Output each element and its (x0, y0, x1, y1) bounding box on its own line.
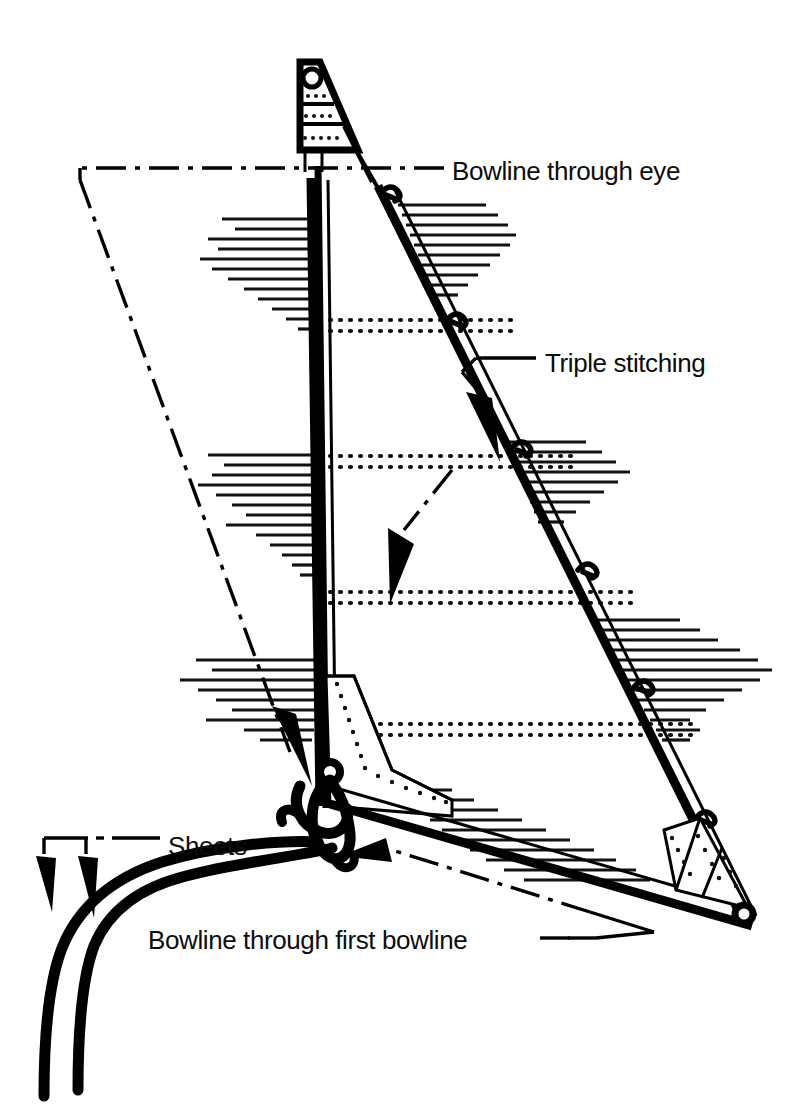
label-sheets: Sheets (168, 831, 247, 861)
label-bowline-through-first-bowline: Bowline through first bowline (148, 925, 467, 955)
sail-diagram: Bowline through eye Triple stitching She… (0, 0, 786, 1118)
sail-diagram-canvas: Bowline through eye Triple stitching She… (0, 0, 786, 1118)
clew-ring (735, 905, 753, 923)
label-bowline-through-eye: Bowline through eye (452, 156, 680, 186)
head-eye-grommet (303, 69, 321, 87)
label-triple-stitching: Triple stitching (545, 348, 705, 378)
